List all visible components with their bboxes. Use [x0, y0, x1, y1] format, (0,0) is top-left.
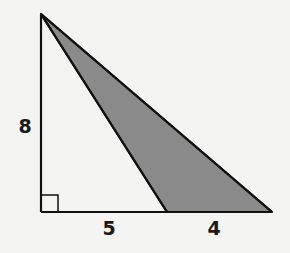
triangle-diagram: 8 5 4 — [0, 0, 290, 253]
base-right-label: 4 — [207, 217, 220, 239]
right-angle-marker — [41, 195, 58, 212]
base-left-label: 5 — [102, 217, 115, 239]
height-label: 8 — [18, 115, 31, 137]
